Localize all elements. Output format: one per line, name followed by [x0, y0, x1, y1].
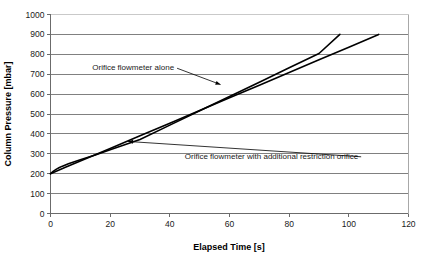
y-axis-tick-label: 400	[30, 129, 44, 139]
pressure-vs-time-line-chart: 01002003004005006007008009001000 0204060…	[0, 0, 427, 266]
x-axis-tick-label: 60	[225, 219, 235, 229]
chart-container: 01002003004005006007008009001000 0204060…	[0, 0, 427, 266]
annotation-lower-label: Orifice flowmeter with additional restri…	[185, 152, 359, 161]
y-axis-tick-label: 700	[30, 69, 44, 79]
x-axis-tick-label: 100	[342, 219, 356, 229]
y-axis-tick-label: 600	[30, 89, 44, 99]
x-axis-tick-label: 20	[105, 219, 115, 229]
chart-background	[0, 0, 427, 266]
x-axis-tick-label: 80	[284, 219, 294, 229]
annotation-upper-label: Orifice flowmeter alone	[92, 63, 174, 72]
y-axis-tick-label: 200	[30, 169, 44, 179]
y-axis-tick-label: 1000	[26, 10, 45, 20]
y-axis-tick-label: 300	[30, 149, 44, 159]
x-axis-tick-label: 0	[48, 219, 53, 229]
x-axis-title: Elapsed Time [s]	[193, 242, 264, 252]
x-axis-tick-label: 120	[401, 219, 415, 229]
y-axis-tick-label: 500	[30, 109, 44, 119]
y-axis-tick-label: 900	[30, 29, 44, 39]
y-axis-title: Column Pressure [mbar]	[3, 61, 13, 166]
y-axis-tick-label: 100	[30, 189, 44, 199]
y-axis-tick-label: 800	[30, 49, 44, 59]
x-axis-tick-label: 40	[165, 219, 175, 229]
y-axis-tick-label: 0	[40, 209, 45, 219]
